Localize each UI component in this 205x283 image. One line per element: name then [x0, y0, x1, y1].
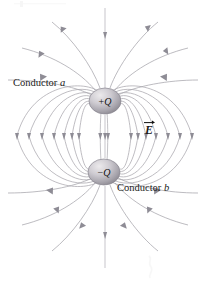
scan-artifact-top	[14, 1, 66, 9]
conductor-a-letter: a	[60, 77, 65, 88]
vector-arrow-icon	[144, 119, 155, 124]
conductor-b-letter: b	[164, 182, 169, 193]
outgoing-arrowheads-top	[36, 23, 170, 81]
scan-artifact-bottom	[144, 255, 156, 279]
inner-vertical-field-lines	[100, 112, 108, 161]
conductor-a-text: Conductor	[13, 77, 60, 88]
incoming-arrowheads-bottom	[46, 187, 161, 228]
charge-negative-sphere: −Q	[88, 159, 120, 185]
efield-symbol: E	[145, 123, 153, 137]
charge-negative-label: −Q	[98, 167, 112, 178]
field-line-diagram: +Q −Q	[0, 0, 205, 283]
conductor-b-label: Conductor b	[117, 183, 169, 194]
electric-field-figure: +Q −Q Conductor a Conductor b E	[0, 0, 205, 283]
charge-positive-sphere: +Q	[89, 88, 121, 114]
electric-field-vector-label: E	[145, 124, 153, 136]
conductor-b-text: Conductor	[117, 182, 164, 193]
dipole-axis-line	[103, 8, 107, 268]
charge-positive-label: +Q	[99, 96, 113, 107]
conductor-a-label: Conductor a	[13, 78, 65, 89]
incoming-field-lines-bottom	[8, 178, 198, 251]
